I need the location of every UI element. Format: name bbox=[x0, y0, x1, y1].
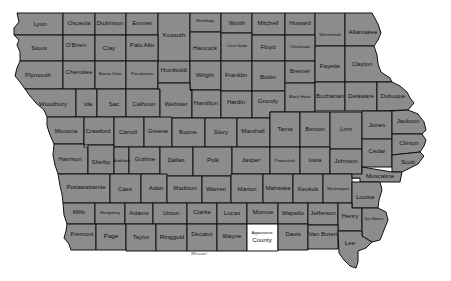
label-franklin: Franklin bbox=[225, 71, 248, 78]
county-cherokee[interactable] bbox=[63, 61, 95, 89]
label-mills: Mills bbox=[73, 208, 85, 215]
label-carroll: Carroll bbox=[119, 128, 137, 135]
label-emmet: Emmet bbox=[132, 19, 152, 26]
label-madison: Madison bbox=[173, 184, 197, 191]
county-winneshiek[interactable] bbox=[315, 13, 345, 46]
label-adams: Adams bbox=[129, 209, 148, 216]
label-union: Union bbox=[163, 209, 180, 216]
label-linn: Linn bbox=[340, 125, 352, 132]
label-harrison: Harrison bbox=[58, 155, 82, 162]
label-dubuque: Dubuque bbox=[380, 92, 406, 99]
label-cass: Cass bbox=[118, 185, 132, 192]
label-delaware: Delaware bbox=[348, 92, 375, 99]
label-jasper: Jasper bbox=[242, 156, 261, 163]
label-howard: Howard bbox=[289, 19, 311, 26]
label-winnebago: Winnebago bbox=[196, 19, 214, 23]
label-lee: Lee bbox=[345, 239, 356, 246]
county-fremont[interactable] bbox=[64, 224, 96, 250]
label-mitchell: Mitchell bbox=[258, 19, 279, 26]
label-greene: Greene bbox=[148, 127, 169, 134]
label-palo-alto: Palo Alto bbox=[130, 41, 155, 48]
label-jones: Jones bbox=[369, 121, 386, 128]
label-plymouth: Plymouth bbox=[25, 71, 51, 78]
label-wapello: Wapello bbox=[282, 209, 305, 216]
label-scott: Scott bbox=[401, 158, 415, 165]
label-audubon: Audubon bbox=[114, 158, 131, 163]
label-lyon: Lyon bbox=[33, 20, 47, 27]
label-appanoose: Appanoose bbox=[251, 230, 273, 235]
label-butler: Butler bbox=[260, 73, 276, 80]
label-cerro-gordo: Cerro Gordo bbox=[227, 44, 247, 48]
label-henry: Henry bbox=[342, 212, 359, 219]
label-guthrie: Guthrie bbox=[135, 155, 156, 162]
label-appanoose-county: County bbox=[252, 236, 273, 243]
label-kossuth: Kossuth bbox=[163, 31, 186, 38]
label-montgomery: Montgomery bbox=[100, 211, 120, 215]
label-chickasaw: Chickasaw bbox=[290, 44, 311, 49]
label-johnson: Johnson bbox=[334, 157, 358, 164]
label-benton: Benton bbox=[305, 125, 325, 132]
label-polk: Polk bbox=[207, 156, 220, 163]
label-missouri: Missouri bbox=[190, 251, 208, 256]
label-osceola: Osceola bbox=[68, 19, 91, 26]
county-van-buren[interactable] bbox=[308, 225, 338, 249]
label-hardin: Hardin bbox=[227, 98, 246, 105]
label-hancock: Hancock bbox=[193, 44, 218, 51]
label-dallas: Dallas bbox=[167, 156, 184, 163]
label-cedar: Cedar bbox=[369, 147, 386, 154]
label-taylor: Taylor bbox=[133, 233, 150, 240]
label-mahaska: Mahaska bbox=[265, 184, 291, 191]
county-davis[interactable] bbox=[278, 224, 308, 250]
county-decatur[interactable] bbox=[187, 224, 217, 251]
label-hamilton: Hamilton bbox=[194, 99, 219, 106]
label-pottawattamie: Pottawattamie bbox=[66, 183, 106, 190]
label-allamakee: Allamakee bbox=[349, 28, 378, 35]
county-des-moines[interactable] bbox=[362, 208, 388, 242]
label-fayette: Fayette bbox=[320, 62, 341, 69]
label-fremont: Fremont bbox=[70, 230, 93, 237]
label-monona: Monona bbox=[55, 127, 78, 134]
label-iowa: Iowa bbox=[308, 156, 322, 163]
label-poweshiek: Poweshiek bbox=[275, 158, 296, 163]
label-buchanan: Buchanan bbox=[316, 92, 344, 99]
label-louisa: Louisa bbox=[356, 193, 375, 200]
label-winneshiek: Winneshiek bbox=[319, 32, 342, 37]
label-clayton: Clayton bbox=[352, 60, 374, 67]
label-woodbury: Woodbury bbox=[39, 100, 68, 107]
label-sac: Sac bbox=[109, 100, 120, 107]
label-crawford: Crawford bbox=[85, 127, 111, 134]
label-dickinson: Dickinson bbox=[97, 19, 124, 26]
label-decatur: Decatur bbox=[191, 230, 213, 237]
label-shelby: Shelby bbox=[92, 158, 112, 165]
label-bremer: Bremer bbox=[290, 67, 310, 74]
label-marion: Marion bbox=[238, 185, 257, 192]
label-calhoun: Calhoun bbox=[132, 100, 156, 107]
label-clinton: Clinton bbox=[399, 139, 419, 146]
label-cherokee: Cherokee bbox=[66, 68, 93, 75]
label-warren: Warren bbox=[206, 185, 227, 192]
label-webster: Webster bbox=[165, 100, 188, 107]
label-washington: Washington bbox=[327, 186, 350, 191]
label-sioux: Sioux bbox=[31, 44, 47, 51]
label-page: Page bbox=[104, 232, 119, 239]
label-ida: Ida bbox=[84, 100, 93, 107]
county-obrien[interactable] bbox=[63, 35, 95, 61]
label-monroe: Monroe bbox=[253, 208, 275, 215]
label-clay: Clay bbox=[103, 44, 116, 51]
label-keokuk: Keokuk bbox=[298, 185, 320, 192]
label-buena-vista: Buena Vista bbox=[99, 71, 122, 76]
label-black-hawk: Black Hawk bbox=[289, 94, 312, 99]
label-muscatine: Muscatine bbox=[366, 172, 395, 179]
label-wright: Wright bbox=[196, 71, 214, 78]
label-pocahontas: Pocahontas bbox=[131, 71, 153, 76]
label-jackson: Jackson bbox=[397, 117, 420, 124]
label-wayne: Wayne bbox=[222, 232, 242, 239]
label-obrien: O'Brien bbox=[66, 41, 87, 48]
label-worth: Worth bbox=[229, 19, 246, 26]
label-boone: Boone bbox=[179, 128, 197, 135]
label-marshall: Marshall bbox=[241, 127, 264, 134]
label-humboldt: Humboldt bbox=[161, 66, 188, 73]
county-palo-alto[interactable] bbox=[126, 35, 158, 61]
label-lucas: Lucas bbox=[224, 209, 241, 216]
label-adair: Adair bbox=[149, 184, 163, 191]
